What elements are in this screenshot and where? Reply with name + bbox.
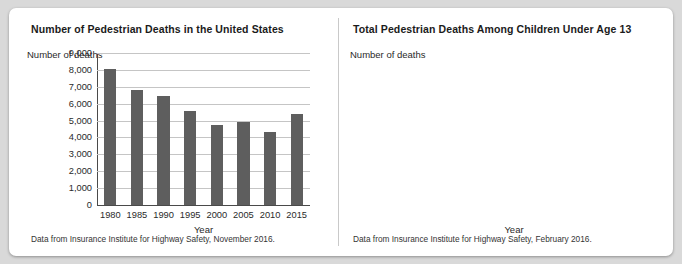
x-axis-tick-label: 1985	[127, 210, 148, 220]
bar	[264, 132, 276, 205]
y-axis-tick-label: 0	[87, 200, 92, 210]
bar-chart-plot-area: 01,0002,0003,0004,0005,0006,0007,0008,00…	[97, 53, 310, 206]
x-axis-tick-label: 2000	[206, 210, 227, 220]
gridline	[97, 53, 310, 54]
line-chart-panel: Total Pedestrian Deaths Among Children U…	[338, 8, 673, 256]
figure-card: Number of Pedestrian Deaths in the Unite…	[9, 8, 673, 256]
bar-chart-title: Number of Pedestrian Deaths in the Unite…	[31, 23, 284, 35]
bar	[131, 90, 143, 205]
y-axis-tick-label: 6,000	[69, 99, 92, 109]
y-axis-tick-label: 1,000	[69, 183, 92, 193]
bar	[104, 69, 116, 205]
gridline	[97, 171, 310, 172]
x-axis-tick-label: 2010	[260, 210, 281, 220]
bar-chart-y-axis-line	[97, 53, 98, 206]
line-chart-source-caption: Data from Insurance Institute for Highwa…	[353, 234, 592, 244]
x-axis-tick-label: 2015	[286, 210, 307, 220]
bar-chart-source-caption: Data from Insurance Institute for Highwa…	[31, 234, 275, 244]
y-axis-tick-label: 5,000	[69, 116, 92, 126]
bar	[237, 122, 249, 205]
bar	[184, 111, 196, 205]
gridline	[97, 188, 310, 189]
gridline	[97, 104, 310, 105]
bar-chart-panel: Number of Pedestrian Deaths in the Unite…	[9, 8, 338, 256]
y-axis-tick-label: 4,000	[69, 132, 92, 142]
gridline	[97, 137, 310, 138]
y-axis-tick-label: 7,000	[69, 82, 92, 92]
y-axis-tick-label: 8,000	[69, 65, 92, 75]
gridline	[97, 70, 310, 71]
y-axis-tick-label: 2,000	[69, 166, 92, 176]
bar	[157, 96, 169, 205]
line-chart-title: Total Pedestrian Deaths Among Children U…	[353, 23, 631, 35]
x-axis-tick-label: 1980	[100, 210, 121, 220]
gridline	[97, 87, 310, 88]
line-chart-y-axis-label: Number of deaths	[350, 49, 404, 61]
gridline	[97, 121, 310, 122]
gridline	[97, 154, 310, 155]
x-axis-tick-label: 1990	[153, 210, 174, 220]
bar-chart-x-axis-line	[97, 205, 310, 206]
x-axis-tick-label: 1995	[180, 210, 201, 220]
y-axis-tick-label: 9,000	[69, 48, 92, 58]
bar	[211, 125, 223, 205]
x-axis-tick-label: 2005	[233, 210, 254, 220]
y-axis-tick-label: 3,000	[69, 149, 92, 159]
bar	[291, 114, 303, 205]
